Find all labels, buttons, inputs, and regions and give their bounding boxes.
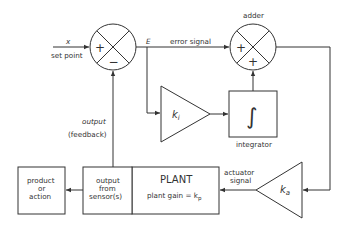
error-signal-label: error signal [170,37,211,46]
error-signal-line: E error signal [136,37,229,47]
sensor-block: output from sensor(s) [83,167,132,214]
plus-sign-left: + [236,41,246,55]
feedback-label: (feedback) [68,130,107,139]
sensor-line3: sensor(s) [89,192,122,201]
x-label: x [65,37,71,46]
minus-sign: − [109,55,119,69]
integral-branch-wire [147,47,160,113]
adder-summer: adder + + [230,11,276,70]
E-label: E [146,37,151,46]
ki-gain-block: ki [161,86,210,142]
control-loop-diagram: x set point + − E error signal ki ∫ inte… [0,0,350,227]
integrator-block: ∫ integrator [229,91,277,149]
plant-gain-text: plant gain = kp [147,191,202,202]
plus-sign-bottom: + [248,55,258,69]
comparator-summer: + − [90,24,136,70]
actuator-signal-line: actuator signal [220,168,256,190]
integrator-label: integrator [236,140,272,149]
plant-block: PLANT plant gain = kp [132,167,219,214]
product-line3: action [29,192,51,201]
integral-symbol: ∫ [246,104,257,129]
ka-gain-block: ka [256,162,302,218]
plus-sign: + [95,41,105,55]
feedback-line: output (feedback) [68,71,113,167]
output-label: output [82,117,107,126]
signal-label: signal [230,176,251,185]
plant-title: PLANT [160,174,193,185]
adder-to-ka-wire [276,47,330,190]
set-point-input: x set point [51,37,89,60]
adder-label: adder [243,11,264,20]
set-point-label: set point [51,51,83,60]
product-block: product or action [18,167,65,214]
